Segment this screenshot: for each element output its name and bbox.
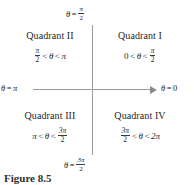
quadrant-2-name: Quadrant II: [12, 30, 88, 41]
equals-sign: =: [5, 83, 13, 93]
quadrant-2-range: π 2 <θ<π: [12, 47, 88, 64]
quadrant-1-range: 0<θ< π 2: [100, 47, 180, 64]
range-right-operator: <: [143, 131, 151, 141]
axis-label-top: θ= π 2: [66, 6, 84, 22]
equals-sign: =: [70, 9, 78, 19]
fraction-denominator: 2: [78, 14, 84, 21]
fraction-denominator: 2: [121, 136, 130, 144]
quadrant-1-name: Quadrant I: [100, 30, 180, 41]
quadrant-4-name: Quadrant IV: [100, 110, 180, 121]
quadrant-3-block: Quadrant III π<θ< 3π 2: [12, 110, 88, 144]
fraction-denominator: 2: [35, 56, 41, 64]
quadrant-4-range: 3π 2 <θ<2π: [100, 127, 180, 144]
axis-label-bottom: θ= 3π 2: [64, 157, 86, 173]
fraction: 3π 2: [58, 127, 67, 144]
axis-label-right: θ=0: [161, 84, 177, 93]
fraction: 3π 2: [121, 127, 130, 144]
range-right-operator: <: [49, 131, 57, 141]
quadrant-4-block: Quadrant IV 3π 2 <θ<2π: [100, 110, 180, 144]
fraction: 3π 2: [76, 157, 85, 173]
vertical-axis: [92, 25, 93, 155]
quadrant-3-name: Quadrant III: [12, 110, 88, 121]
fraction-denominator: 2: [150, 56, 156, 64]
range-right-operator: <: [141, 51, 149, 61]
axis-label-left: θ=π: [1, 84, 17, 93]
axis-arrowhead-icon: [150, 86, 157, 94]
range-right-value: 2π: [151, 131, 160, 141]
range-left-operator: <: [129, 51, 137, 61]
equals-sign: =: [165, 83, 173, 93]
fraction-denominator: 2: [76, 165, 85, 172]
range-right-value: π: [61, 51, 66, 61]
range-left-operator: <: [37, 131, 45, 141]
horizontal-axis: [33, 89, 153, 90]
range-left-operator: <: [41, 51, 49, 61]
quadrant-2-block: Quadrant II π 2 <θ<π: [12, 30, 88, 64]
fraction: π 2: [78, 6, 84, 22]
equals-sign: =: [68, 160, 76, 170]
quadrant-3-range: π<θ< 3π 2: [12, 127, 88, 144]
range-left-value: 0: [124, 51, 129, 61]
quadrant-1-block: Quadrant I 0<θ< π 2: [100, 30, 180, 64]
polar-quadrant-figure: θ= π 2 θ= 3π 2 θ=π θ=0 Quadrant I 0<θ< π…: [0, 0, 194, 185]
figure-caption: Figure 8.5: [4, 172, 51, 184]
axis-label-left-value: π: [13, 83, 17, 93]
fraction-denominator: 2: [58, 136, 67, 144]
axis-label-right-value: 0: [173, 83, 177, 93]
fraction: π 2: [150, 47, 156, 64]
fraction: π 2: [35, 47, 41, 64]
